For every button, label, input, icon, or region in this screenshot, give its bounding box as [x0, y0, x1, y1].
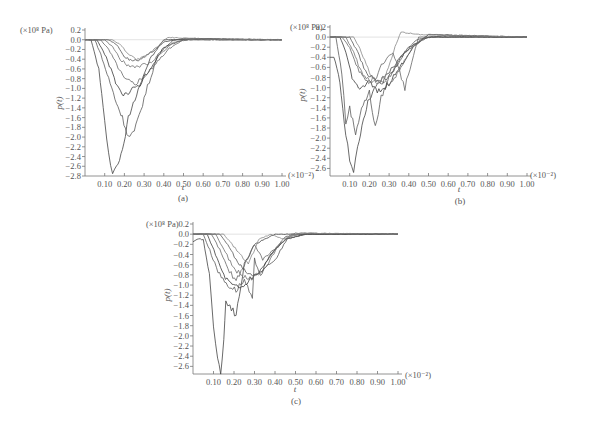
y-tick-label: −1.6: [174, 311, 189, 321]
y-tick-label: −1.6: [311, 113, 326, 123]
series-line-s6: [330, 36, 527, 84]
y-tick-label: −0.8: [66, 74, 81, 84]
x-tick-label: 0.30: [247, 377, 262, 387]
y-tick-label: −2.0: [66, 132, 81, 142]
x-tick-label: 0.80: [235, 179, 250, 189]
y-tick-label: −0.6: [311, 62, 326, 72]
x-tick-label: 0.60: [196, 179, 211, 189]
x-tick-label: 1.00: [275, 179, 290, 189]
y-tick-label: −2.2: [66, 142, 81, 152]
y-tick-label: −1.8: [66, 122, 81, 132]
panel-caption: (a): [178, 193, 188, 203]
y-tick-label: −0.6: [174, 260, 189, 270]
y-tick-label: −2.0: [174, 331, 189, 341]
y-tick-label: −2.6: [174, 361, 189, 371]
x-unit-label: (×10⁻²): [405, 370, 431, 380]
y-tick-label: 0.0: [70, 35, 81, 45]
y-tick-label: −1.4: [66, 103, 82, 113]
x-tick-label: 0.20: [362, 179, 377, 189]
y-tick-label: −2.6: [311, 163, 326, 173]
x-tick-label: 1.00: [520, 179, 535, 189]
x-tick-label: 0.10: [97, 179, 112, 189]
x-tick-label: 0.30: [382, 179, 397, 189]
x-tick-label: 0.90: [500, 179, 515, 189]
y-axis-title: p(t): [162, 289, 172, 303]
x-tick-label: 0.40: [268, 377, 283, 387]
panel-caption: (c): [291, 396, 301, 406]
y-tick-label: −0.2: [66, 44, 81, 54]
x-tick-label: 1.00: [391, 377, 406, 387]
series-line-s1: [85, 39, 282, 174]
y-tick-label: 0.0: [315, 32, 326, 42]
y-tick-label: 0.2: [70, 25, 81, 35]
panel-caption: (b): [455, 196, 466, 206]
y-axis-title: p(t): [297, 89, 307, 103]
x-tick-label: 0.10: [206, 377, 221, 387]
y-tick-label: −1.6: [66, 113, 81, 123]
series-line-s4: [330, 37, 527, 91]
y-tick-label: −0.2: [174, 239, 189, 249]
x-tick-label: 0.70: [215, 179, 230, 189]
y-tick-label: −2.8: [66, 171, 81, 181]
y-tick-label: −1.4: [174, 300, 190, 310]
y-tick-label: −1.0: [66, 83, 81, 93]
y-tick-label: −2.6: [66, 161, 81, 171]
y-tick-label: −1.0: [174, 280, 189, 290]
x-tick-label: 0.40: [401, 179, 416, 189]
y-tick-label: −1.2: [311, 93, 326, 103]
y-tick-label: −1.2: [174, 290, 189, 300]
y-tick-label: −1.8: [174, 321, 189, 331]
y-unit-label: (×10⁸ Pa): [20, 25, 53, 35]
y-tick-label: −0.8: [311, 73, 326, 83]
x-tick-label: 0.30: [137, 179, 152, 189]
x-tick-label: 0.90: [255, 179, 270, 189]
x-tick-label: 0.20: [117, 179, 132, 189]
series-line-s1: [193, 234, 398, 374]
series-line-s2: [330, 37, 527, 135]
y-tick-label: −1.4: [311, 103, 327, 113]
y-tick-label: −0.6: [66, 64, 81, 74]
y-tick-label: 0.0: [178, 229, 189, 239]
y-tick-label: −2.0: [311, 133, 326, 143]
x-tick-label: 0.40: [156, 179, 171, 189]
panel-c: 0.20.0−0.2−0.4−0.6−0.8−1.0−1.2−1.4−1.6−1…: [146, 219, 431, 406]
x-tick-label: 0.60: [441, 179, 456, 189]
series-line-s3: [85, 40, 282, 97]
x-tick-label: 0.90: [370, 377, 385, 387]
y-tick-label: −1.0: [311, 83, 326, 93]
x-tick-label: 0.60: [309, 377, 324, 387]
series-line-s2: [193, 234, 398, 299]
panel-b: 0.20.0−0.2−0.4−0.6−0.8−1.0−1.2−1.4−1.6−1…: [290, 22, 556, 206]
y-tick-label: −0.4: [174, 250, 190, 260]
y-tick-label: −0.8: [174, 270, 189, 280]
y-tick-label: −2.2: [174, 341, 189, 351]
y-tick-label: −1.2: [66, 93, 81, 103]
y-tick-label: −0.4: [66, 54, 82, 64]
x-tick-label: 0.10: [342, 179, 357, 189]
y-tick-label: −2.4: [311, 153, 327, 163]
y-tick-label: −0.4: [311, 52, 327, 62]
y-unit-label: (×10⁸ Pa): [146, 219, 179, 229]
x-tick-label: 0.70: [460, 179, 475, 189]
y-tick-label: −0.2: [311, 42, 326, 52]
y-tick-label: 0.2: [178, 219, 189, 229]
series-line-s3: [330, 34, 527, 93]
x-tick-label: 0.20: [227, 377, 242, 387]
x-tick-label: 0.80: [350, 377, 365, 387]
y-tick-label: −2.4: [174, 351, 190, 361]
y-tick-label: −1.8: [311, 123, 326, 133]
y-axis-title: p(t): [54, 97, 64, 111]
y-tick-label: −2.2: [311, 143, 326, 153]
series-line-s6: [193, 234, 398, 276]
x-tick-label: 0.70: [329, 377, 344, 387]
series-line-s5: [330, 34, 527, 86]
y-tick-label: −2.4: [66, 152, 82, 162]
figure-canvas: 0.20.0−0.2−0.4−0.6−0.8−1.0−1.2−1.4−1.6−1…: [0, 0, 591, 432]
panel-a: 0.20.0−0.2−0.4−0.6−0.8−1.0−1.2−1.4−1.6−1…: [20, 25, 314, 203]
x-tick-label: 0.80: [480, 179, 495, 189]
x-unit-label: (×10⁻²): [530, 170, 556, 180]
x-tick-label: 0.50: [421, 179, 436, 189]
y-unit-label: (×10⁸ Pa): [290, 22, 323, 32]
series-line-s2: [85, 39, 282, 137]
